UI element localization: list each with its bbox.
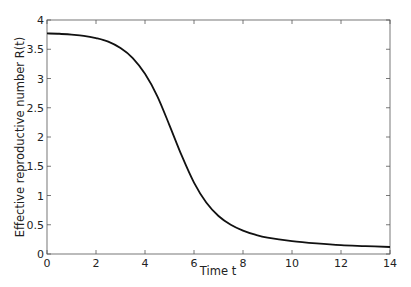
x-tick-label: 4 bbox=[142, 257, 149, 270]
chart: 02468101214 00.511.522.533.54 Time t Eff… bbox=[0, 0, 411, 287]
y-tick-label: 1 bbox=[37, 190, 44, 203]
x-tick-label: 2 bbox=[93, 257, 100, 270]
x-tick-label: 0 bbox=[44, 257, 51, 270]
x-tick-label: 8 bbox=[240, 257, 247, 270]
y-tick-label: 0.5 bbox=[27, 219, 45, 232]
x-axis-label: Time t bbox=[199, 264, 237, 278]
y-axis-label: Effective reproductive number R(t) bbox=[13, 37, 27, 237]
x-tick-label: 14 bbox=[383, 257, 397, 270]
y-tick-label: 3.5 bbox=[27, 43, 45, 56]
y-tick-label: 0 bbox=[37, 248, 44, 261]
x-tick-label: 12 bbox=[334, 257, 348, 270]
y-tick-label: 3 bbox=[37, 73, 44, 86]
y-tick-label: 4 bbox=[37, 14, 44, 27]
y-tick-label: 2.5 bbox=[27, 102, 45, 115]
y-tick-label: 1.5 bbox=[27, 160, 45, 173]
x-tick-label: 10 bbox=[285, 257, 299, 270]
y-tick-label: 2 bbox=[37, 131, 44, 144]
plot-area bbox=[47, 20, 390, 254]
x-tick-label: 6 bbox=[191, 257, 198, 270]
